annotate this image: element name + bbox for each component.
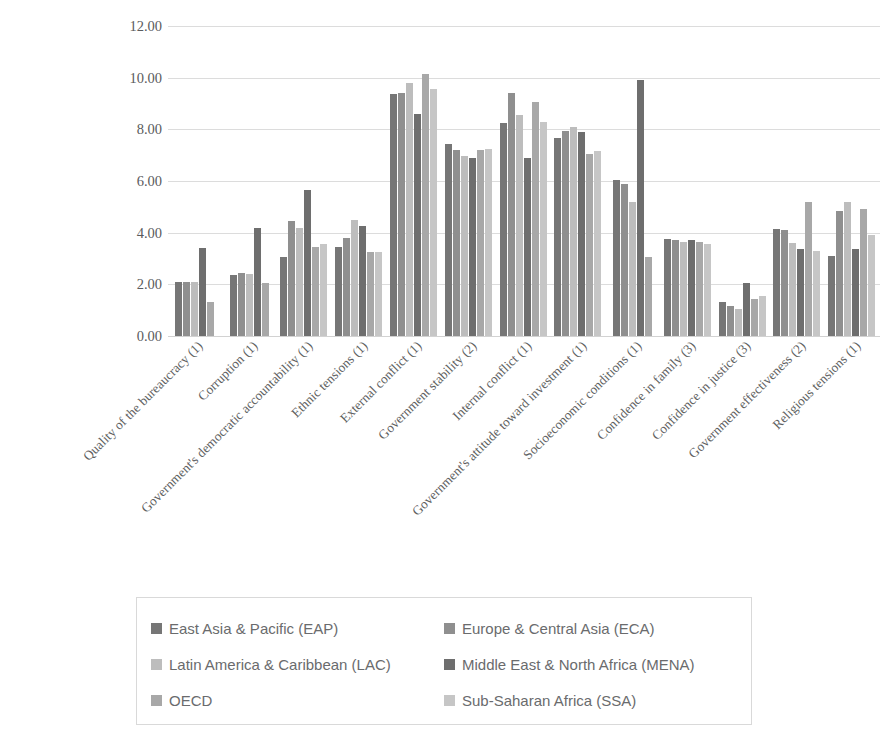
bar: [230, 275, 237, 336]
bar: [335, 247, 342, 336]
legend-label: East Asia & Pacific (EAP): [169, 620, 338, 637]
bar: [852, 249, 859, 336]
y-axis-tick-label: 2.00: [137, 277, 162, 291]
x-axis-label: Confidence in justice (3): [649, 338, 755, 444]
bar: [280, 257, 287, 336]
bar-group: [664, 26, 711, 336]
bar: [868, 235, 875, 336]
legend-item[interactable]: Middle East & North Africa (MENA): [444, 656, 737, 673]
legend-label: OECD: [169, 692, 212, 709]
y-axis-tick-label: 12.00: [129, 19, 162, 33]
bar-group: [773, 26, 820, 336]
bar-chart: 0.002.004.006.008.0010.0012.00 Quality o…: [0, 0, 888, 746]
bar: [578, 132, 585, 336]
x-axis-label: Quality of the bureaucracy (1): [80, 338, 206, 464]
bar: [312, 247, 319, 336]
legend-item[interactable]: Europe & Central Asia (ECA): [444, 620, 737, 637]
legend-label: Middle East & North Africa (MENA): [462, 656, 695, 673]
bar: [594, 151, 601, 336]
bar: [586, 154, 593, 336]
bar: [390, 94, 397, 336]
bar: [727, 306, 734, 336]
legend-item[interactable]: Sub-Saharan Africa (SSA): [444, 692, 737, 709]
bar: [532, 102, 539, 336]
bar: [351, 220, 358, 336]
legend-swatch-icon: [444, 695, 455, 706]
bar: [359, 226, 366, 336]
legend-item[interactable]: East Asia & Pacific (EAP): [151, 620, 444, 637]
bar: [414, 114, 421, 336]
bar: [296, 228, 303, 337]
plot-area: 0.002.004.006.008.0010.0012.00: [0, 0, 888, 340]
bar: [375, 252, 382, 336]
bar-group: [230, 26, 269, 336]
bar: [672, 240, 679, 336]
x-axis-category-labels: Quality of the bureaucracy (1)Corruption…: [0, 334, 888, 584]
bar: [680, 242, 687, 336]
bar: [246, 274, 253, 336]
bar: [860, 209, 867, 336]
bar: [844, 202, 851, 336]
legend-swatch-icon: [444, 659, 455, 670]
bar: [704, 244, 711, 336]
legend-swatch-icon: [151, 695, 162, 706]
legend-item[interactable]: Latin America & Caribbean (LAC): [151, 656, 444, 673]
bar: [508, 93, 515, 336]
bar-group: [280, 26, 327, 336]
bar: [629, 202, 636, 336]
bar: [406, 83, 413, 336]
y-axis-tick-label: 6.00: [137, 174, 162, 188]
bar: [696, 242, 703, 336]
bar: [469, 158, 476, 336]
bar: [304, 190, 311, 336]
bar: [367, 252, 374, 336]
bar: [445, 144, 452, 336]
bar: [570, 127, 577, 336]
bar: [485, 149, 492, 336]
bar: [789, 243, 796, 336]
bar: [500, 123, 507, 336]
bar: [288, 221, 295, 336]
chart-legend: East Asia & Pacific (EAP)Europe & Centra…: [136, 597, 752, 725]
legend-swatch-icon: [151, 659, 162, 670]
y-axis-tick-label: 4.00: [137, 226, 162, 240]
bar: [743, 283, 750, 336]
bar: [199, 248, 206, 336]
bar: [688, 240, 695, 336]
bar: [262, 283, 269, 336]
bar: [645, 257, 652, 336]
bar: [828, 256, 835, 336]
legend-label: Latin America & Caribbean (LAC): [169, 656, 391, 673]
bar-group: [335, 26, 382, 336]
bar: [540, 122, 547, 336]
legend-item[interactable]: OECD: [151, 692, 444, 709]
bar: [637, 80, 644, 336]
legend-label: Europe & Central Asia (ECA): [462, 620, 655, 637]
x-axis-label: Government stability (2): [375, 338, 480, 443]
bar: [562, 131, 569, 336]
bar: [175, 282, 182, 336]
bar: [453, 150, 460, 336]
bar: [422, 74, 429, 336]
bar: [320, 244, 327, 336]
bar-group: [613, 26, 652, 336]
bar: [797, 249, 804, 336]
legend-swatch-icon: [151, 623, 162, 634]
legend-label: Sub-Saharan Africa (SSA): [462, 692, 636, 709]
legend-swatch-icon: [444, 623, 455, 634]
bar: [461, 156, 468, 336]
bar: [191, 282, 198, 336]
bar-group: [175, 26, 214, 336]
bar: [554, 138, 561, 336]
bar-series-container: [168, 26, 880, 336]
bar: [207, 302, 214, 336]
bar: [836, 211, 843, 336]
bar: [773, 229, 780, 336]
bar-group: [390, 26, 437, 336]
bar: [343, 238, 350, 336]
bar: [398, 93, 405, 336]
bar-group: [445, 26, 492, 336]
bar-group: [828, 26, 875, 336]
y-axis-tick-label: 8.00: [137, 122, 162, 136]
bar: [516, 115, 523, 336]
